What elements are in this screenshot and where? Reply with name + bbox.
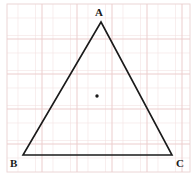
geometry-figure-canvas: A B C: [0, 0, 196, 184]
grid-background: [7, 4, 190, 172]
centroid-point: [95, 94, 98, 97]
vertex-label-c: C: [176, 158, 184, 169]
figure-svg: [0, 0, 196, 184]
vertex-label-b: B: [10, 158, 17, 169]
vertex-label-a: A: [95, 7, 103, 18]
